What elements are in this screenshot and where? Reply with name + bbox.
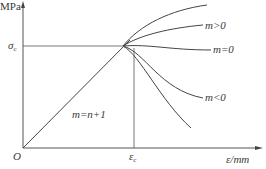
curve-m-positive	[123, 25, 203, 46]
eps-c-label: εc	[129, 151, 136, 164]
y-axis-arrow-icon	[21, 1, 25, 8]
sigma-subscript: c	[13, 45, 16, 53]
m-negative-label: m<0	[205, 92, 226, 103]
m-positive-label: m>0	[205, 20, 226, 31]
x-axis-unit-label: ε/mm	[226, 154, 249, 165]
ascending-branch-curve	[23, 40, 130, 148]
eps-subscript: c	[133, 156, 136, 164]
curve-m-negative	[123, 46, 203, 98]
curve-steep-softening	[123, 46, 191, 128]
sigma-c-label: σc	[8, 40, 17, 53]
ascending-branch-label: m=n+1	[72, 109, 106, 120]
m-zero-label: m=0	[213, 44, 234, 55]
stress-strain-diagram	[0, 0, 266, 169]
origin-label: O	[13, 151, 21, 162]
curve-m-zero	[123, 46, 211, 50]
x-axis-arrow-icon	[255, 146, 263, 150]
y-axis-unit-label: MPa	[0, 1, 21, 12]
